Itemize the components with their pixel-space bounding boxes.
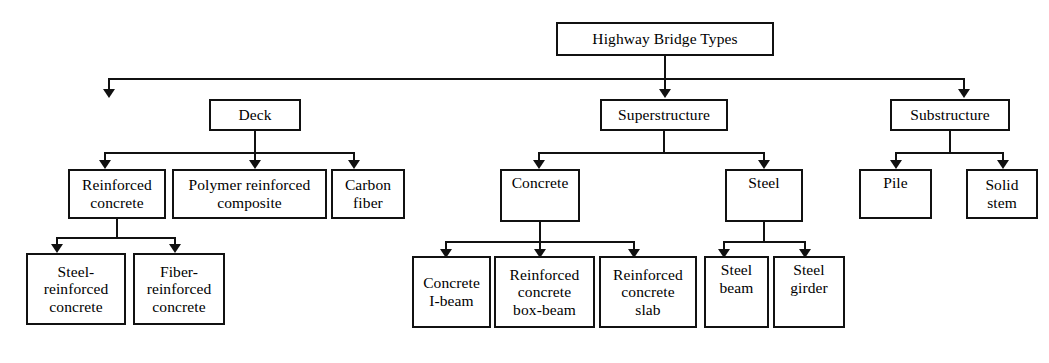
node-solid-stem: Solid stem	[966, 169, 1038, 219]
arrowhead-root-to-superstructure	[659, 89, 671, 98]
connector-steel-bus	[723, 241, 806, 243]
node-steel-beam: Steel beam	[704, 256, 769, 328]
arrowhead-deck-to-polymer-reinforced-composite	[249, 160, 261, 169]
connector-steel-stem	[763, 222, 765, 242]
node-fiber-reinforced-concrete: Fiber- reinforced concrete	[133, 253, 225, 325]
node-pile: Pile	[859, 169, 932, 219]
arrowhead-substructure-to-solid-stem	[997, 160, 1009, 169]
connector-substructure-bus	[895, 152, 1004, 154]
node-concrete-i-beam: Concrete I-beam	[412, 256, 491, 328]
connector-root-stem	[664, 56, 666, 79]
arrowhead-superstructure-to-steel	[758, 160, 770, 169]
connector-deck-stem	[254, 131, 256, 153]
connector-deck-bus	[104, 152, 353, 154]
node-reinforced-concrete-box-beam: Reinforced concrete box-beam	[494, 256, 595, 328]
arrowhead-rc-to-fiber-reinforced-concrete	[169, 244, 181, 253]
connector-superstructure-bus	[538, 152, 765, 154]
node-reinforced-concrete-slab: Reinforced concrete slab	[599, 256, 697, 328]
node-superstructure: Superstructure	[600, 99, 728, 131]
node-polymer-reinforced-composite: Polymer reinforced composite	[172, 169, 327, 219]
node-reinforced-concrete: Reinforced concrete	[68, 169, 166, 219]
node-carbon-fiber: Carbon fiber	[331, 169, 405, 219]
arrowhead-superstructure-to-concrete	[533, 160, 545, 169]
arrowhead-substructure-to-pile	[890, 160, 902, 169]
arrowhead-rc-to-steel-reinforced-concrete	[51, 244, 63, 253]
connector-reinforced-concrete-bus	[56, 237, 176, 239]
connector-reinforced-concrete-stem	[116, 219, 118, 238]
connector-substructure-stem	[949, 131, 951, 153]
node-steel-girder: Steel girder	[773, 256, 845, 328]
highway-bridge-types-diagram: Highway Bridge Types Deck Superstructure…	[0, 0, 1049, 363]
arrowhead-deck-to-reinforced-concrete	[99, 160, 111, 169]
connector-root-bus	[108, 78, 965, 80]
node-steel-reinforced-concrete: Steel- reinforced concrete	[26, 253, 126, 325]
node-steel: Steel	[725, 169, 803, 222]
connector-superstructure-stem	[663, 131, 665, 153]
arrowhead-root-to-substructure	[958, 89, 970, 98]
connector-concrete-stem	[539, 222, 541, 242]
arrowhead-root-to-deck	[103, 89, 115, 98]
node-substructure: Substructure	[890, 99, 1010, 131]
node-root-highway-bridge-types: Highway Bridge Types	[556, 22, 774, 56]
node-concrete: Concrete	[500, 169, 580, 222]
node-deck: Deck	[209, 99, 301, 131]
arrowhead-deck-to-carbon-fiber	[348, 160, 360, 169]
